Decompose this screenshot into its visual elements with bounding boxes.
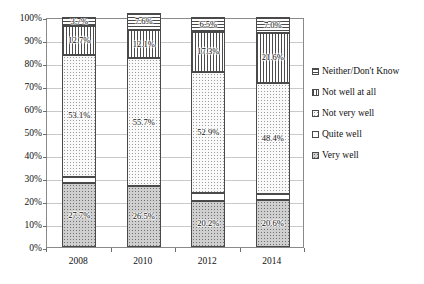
bar-segment[interactable]: 20.6%	[256, 200, 290, 247]
bar-segment-label: 48.4%	[262, 134, 284, 143]
stacked-bar[interactable]: 26.5%55.7%12.1%7.6%	[127, 19, 161, 247]
bar-segment[interactable]: 55.7%	[127, 58, 161, 186]
bar-segment[interactable]: 6.5%	[191, 17, 225, 32]
y-axis-tick-label: 40%	[25, 152, 42, 161]
legend-swatch-icon	[312, 152, 319, 159]
legend-item[interactable]: Neither/Don't Know	[312, 66, 422, 77]
bar-segment-label: 53.1%	[68, 111, 90, 120]
bars-layer: 27.7%53.1%12.7%3.7%26.5%55.7%12.1%7.6%20…	[47, 19, 303, 247]
x-axis-tickmark	[304, 248, 305, 252]
stacked-bar[interactable]: 20.2%52.9%17.3%6.5%	[191, 19, 225, 247]
bar-segment-label: 21.6%	[262, 53, 284, 62]
bar-segment[interactable]	[191, 193, 225, 200]
bar-segment[interactable]: 12.1%	[127, 30, 161, 58]
bar-segment[interactable]: 17.3%	[191, 32, 225, 72]
bar-column: 26.5%55.7%12.1%7.6%	[127, 19, 161, 247]
x-axis-tick-label: 2012	[198, 256, 217, 266]
stacked-column-chart: 0%10%20%30%40%50%60%70%80%90%100% 27.7%5…	[0, 0, 424, 284]
legend-item[interactable]: Not well at all	[312, 87, 422, 98]
x-axis-tick-label: 2014	[262, 256, 281, 266]
legend-item[interactable]: Not very well	[312, 108, 422, 119]
legend-item[interactable]: Quite well	[312, 129, 422, 140]
x-axis-tick-label: 2010	[133, 256, 152, 266]
y-axis-tick-label: 60%	[25, 106, 42, 115]
bar-segment[interactable]: 21.6%	[256, 33, 290, 83]
bar-segment[interactable]: 20.2%	[191, 201, 225, 247]
bar-segment-label: 7.6%	[135, 17, 153, 26]
bar-segment[interactable]: 12.7%	[62, 26, 96, 55]
bar-segment-label: 12.1%	[133, 40, 155, 49]
y-axis-tick-label: 80%	[25, 60, 42, 69]
bar-segment[interactable]: 27.7%	[62, 183, 96, 247]
y-axis-tick-label: 20%	[25, 198, 42, 207]
legend-swatch-icon	[312, 131, 319, 138]
y-axis: 0%10%20%30%40%50%60%70%80%90%100%	[0, 18, 46, 248]
legend-swatch-icon	[312, 68, 319, 75]
y-axis-tick-label: 10%	[25, 221, 42, 230]
x-axis-tickmark	[240, 248, 241, 252]
bar-segment-label: 52.9%	[197, 128, 219, 137]
bar-segment[interactable]: 7.6%	[127, 13, 161, 30]
x-axis-tickmark	[46, 248, 47, 252]
bar-segment-label: 55.7%	[133, 118, 155, 127]
bar-segment-label: 3.7%	[70, 17, 88, 26]
bar-segment[interactable]: 7.0%	[256, 17, 290, 33]
bar-segment[interactable]: 52.9%	[191, 72, 225, 194]
x-axis-tickmark	[111, 248, 112, 252]
y-axis-tick-label: 30%	[25, 175, 42, 184]
y-axis-tick-label: 0%	[29, 244, 42, 253]
x-axis: 2008201020122014	[46, 248, 304, 272]
legend-item-label: Neither/Don't Know	[322, 66, 399, 77]
stacked-bar[interactable]: 27.7%53.1%12.7%3.7%	[62, 19, 96, 247]
x-axis-tickmark	[175, 248, 176, 252]
bar-segment-label: 12.7%	[68, 36, 90, 45]
bar-column: 20.2%52.9%17.3%6.5%	[191, 19, 225, 247]
y-axis-tick-label: 100%	[20, 14, 42, 23]
bar-segment-label: 20.2%	[197, 219, 219, 228]
legend-item[interactable]: Very well	[312, 150, 422, 161]
y-axis-tick-label: 90%	[25, 37, 42, 46]
legend-swatch-icon	[312, 89, 319, 96]
bar-segment-label: 17.3%	[197, 47, 219, 56]
bar-segment[interactable]	[256, 194, 290, 200]
bar-segment-label: 27.7%	[68, 211, 90, 220]
y-axis-tick-label: 70%	[25, 83, 42, 92]
legend-item-label: Not well at all	[322, 87, 376, 98]
bar-segment-label: 26.5%	[133, 212, 155, 221]
stacked-bar[interactable]: 20.6%48.4%21.6%7.0%	[256, 19, 290, 247]
bar-segment[interactable]: 48.4%	[256, 83, 290, 194]
bar-segment[interactable]: 3.7%	[62, 17, 96, 26]
bar-column: 20.6%48.4%21.6%7.0%	[256, 19, 290, 247]
plot-area: 27.7%53.1%12.7%3.7%26.5%55.7%12.1%7.6%20…	[46, 18, 304, 248]
x-axis-tick-label: 2008	[69, 256, 88, 266]
legend-item-label: Quite well	[322, 129, 362, 140]
bar-segment[interactable]: 26.5%	[127, 186, 161, 247]
bar-segment-label: 6.5%	[199, 20, 217, 29]
bar-segment[interactable]	[62, 177, 96, 183]
chart-legend: Neither/Don't KnowNot well at allNot ver…	[312, 66, 422, 171]
bar-segment[interactable]: 53.1%	[62, 55, 96, 177]
legend-swatch-icon	[312, 110, 319, 117]
y-axis-tick-label: 50%	[25, 129, 42, 138]
bar-column: 27.7%53.1%12.7%3.7%	[62, 19, 96, 247]
bar-segment-label: 7.0%	[264, 21, 282, 30]
bar-segment-label: 20.6%	[262, 219, 284, 228]
legend-item-label: Not very well	[322, 108, 374, 119]
legend-item-label: Very well	[322, 150, 359, 161]
